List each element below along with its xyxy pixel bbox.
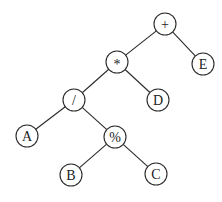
tree-node-plus: + [154, 13, 176, 35]
tree-node-E: E [192, 53, 214, 75]
node-label: A [22, 129, 33, 144]
edge-div-A [36, 107, 66, 130]
node-label: % [109, 130, 121, 145]
node-label: C [151, 167, 160, 182]
tree-node-mod: % [104, 126, 126, 148]
tree-node-C: C [145, 163, 167, 185]
edge-plus-E [173, 32, 196, 56]
edge-mul-D [125, 69, 150, 92]
node-label: E [199, 57, 208, 72]
tree-node-D: D [147, 89, 169, 111]
node-label: B [66, 168, 75, 183]
node-label: / [72, 93, 76, 108]
tree-node-B: B [60, 164, 82, 186]
tree-nodes: +*E/DA%BC [16, 13, 214, 186]
tree-node-A: A [16, 125, 38, 147]
edge-div-mod [82, 107, 107, 129]
edge-mul-div [82, 69, 109, 92]
node-label: D [153, 93, 163, 108]
node-label: + [161, 17, 169, 32]
node-label: * [114, 57, 121, 72]
edge-mod-C [123, 144, 148, 166]
tree-node-div: / [63, 89, 85, 111]
tree-node-mul: * [106, 51, 128, 73]
edge-mod-B [79, 144, 106, 168]
expression-tree: +*E/DA%BC [0, 0, 222, 202]
edge-plus-mul [126, 31, 157, 55]
